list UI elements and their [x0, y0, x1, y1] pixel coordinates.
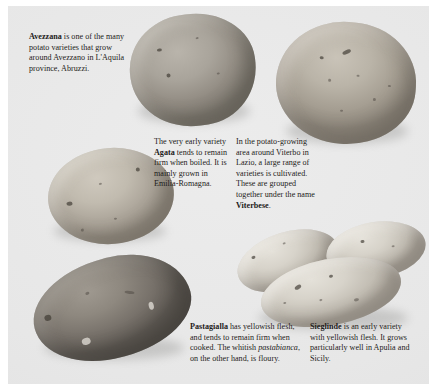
- potato-speck: [356, 75, 359, 77]
- potato-eye: [320, 56, 324, 59]
- caption-viterbese: In the potato-growing area around Viterb…: [236, 137, 319, 211]
- caption-lead-agata: The very early variety: [154, 137, 226, 146]
- caption-lead-viterbese: In the potato-growing area around Viterb…: [236, 137, 315, 199]
- caption-sieglinde: Sieglinde is an early variety with yello…: [310, 322, 417, 364]
- caption-term-agata: Agata: [154, 148, 175, 157]
- caption-italic-pastabianca: pastabianca: [258, 343, 298, 352]
- pastagialla-potato-body: [22, 239, 202, 377]
- viterbese-potato: [272, 17, 420, 148]
- potato-speck: [388, 85, 391, 87]
- caption-term-pastagialla: Pastagialla: [190, 322, 228, 331]
- caption-term-viterbese: Viterbese: [236, 201, 269, 210]
- avezzana-potato: [123, 6, 263, 134]
- caption-term-sieglinde: Sieglinde: [310, 322, 342, 331]
- avezzana-potato-body: [123, 6, 263, 134]
- caption-pastagialla: Pastagialla has yellowish flesh, and ten…: [190, 322, 300, 364]
- caption-term-avezzana: Avezzana: [29, 32, 62, 41]
- caption-avezzana: Avezzana is one of the many potato varie…: [29, 32, 133, 74]
- viterbese-potato-body: [272, 17, 420, 148]
- caption-text-viterbese: .: [269, 201, 271, 210]
- photo-page: Avezzana is one of the many potato varie…: [8, 6, 429, 384]
- caption-agata: The very early variety Agata tends to re…: [154, 137, 229, 190]
- potato-speck: [340, 110, 343, 112]
- pastagialla-potato: [22, 239, 202, 377]
